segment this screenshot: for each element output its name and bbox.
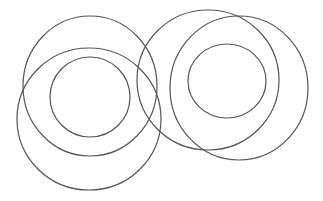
right-left-circle — [137, 10, 279, 150]
left-inner-circle — [50, 57, 130, 137]
right-group — [137, 10, 308, 160]
right-inner-circle — [188, 44, 266, 118]
right-right-circle — [170, 16, 308, 160]
diagram-canvas — [0, 0, 323, 201]
left-group — [17, 16, 161, 190]
left-lower-circle — [17, 48, 161, 190]
